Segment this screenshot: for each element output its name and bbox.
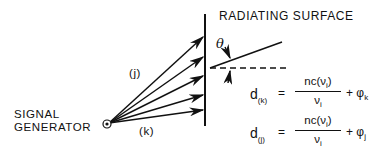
eq-lhs-sub: (j): [258, 135, 265, 144]
eq-lhs-sub: (k): [258, 96, 267, 105]
eq-phi: + φk: [346, 86, 368, 102]
eq-lhs: d: [250, 125, 258, 141]
eq-numerator: nc(νi): [295, 75, 341, 90]
eq-numerator: nc(νi): [295, 114, 341, 129]
angle-arrow-bottom: [228, 71, 230, 83]
angle-arrow-top: [225, 47, 230, 58]
signal-rays: [109, 37, 203, 123]
signal-generator-label-line1: SIGNAL: [14, 108, 60, 121]
path-j-label: (j): [129, 67, 141, 80]
eq-equals: =: [278, 125, 285, 139]
path-k-label: (k): [139, 125, 154, 138]
signal-generator-label-line2: GENERATOR: [14, 121, 91, 134]
eq-denominator: νi: [295, 94, 341, 109]
eq-denominator: νi: [295, 133, 341, 148]
eq-equals: =: [278, 86, 285, 100]
eq-phi: + φj: [346, 125, 366, 141]
signal-generator-icon: [103, 120, 111, 128]
fraction-bar: [295, 130, 341, 131]
fraction-bar: [295, 91, 341, 92]
eq-lhs: d: [250, 86, 258, 102]
theta-label: θ: [216, 37, 224, 50]
radiating-surface-label: RADIATING SURFACE: [219, 10, 354, 23]
